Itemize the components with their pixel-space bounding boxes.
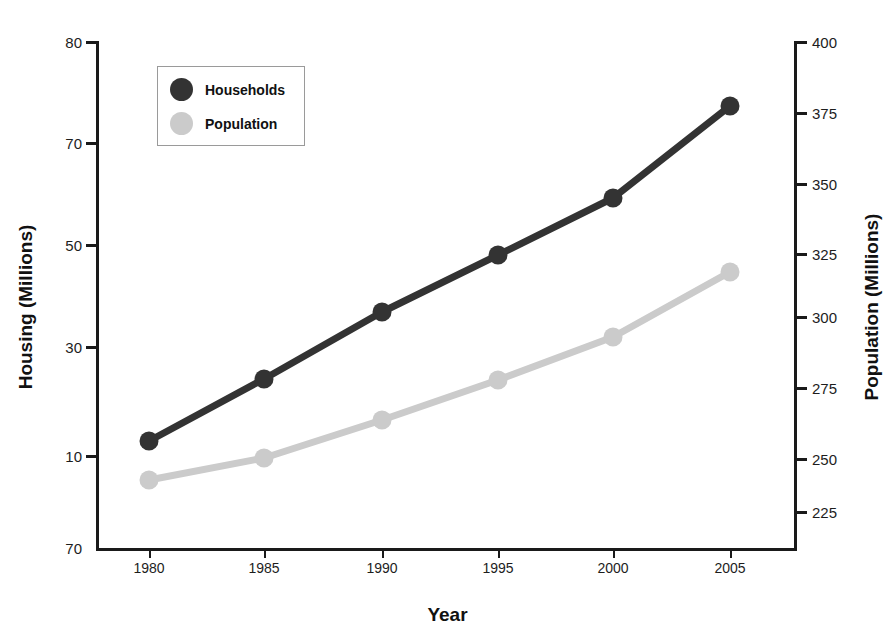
y-axis-right-tick — [796, 458, 807, 461]
y-axis-right-tick-label: 350 — [812, 176, 837, 193]
data-point-households — [721, 97, 740, 116]
y-axis-left-tick — [86, 142, 97, 145]
data-point-population — [604, 328, 623, 347]
x-axis-tick — [730, 548, 732, 558]
data-point-population — [489, 371, 508, 390]
y-axis-left-title: Housing (Millions) — [15, 197, 37, 417]
x-axis-tick — [149, 548, 151, 558]
x-axis-tick — [264, 548, 266, 558]
legend-item-population: Population — [170, 112, 277, 135]
y-axis-left-line — [96, 41, 99, 551]
y-axis-right-tick — [796, 112, 807, 115]
x-axis-tick-label: 1985 — [248, 560, 279, 576]
legend-marker-population-icon — [170, 112, 193, 135]
y-axis-right-tick-label: 250 — [812, 451, 837, 468]
data-point-population — [140, 471, 159, 490]
y-axis-right-title: Population (Millions) — [861, 192, 883, 422]
y-axis-left-tick — [86, 41, 97, 44]
series-line-population — [149, 272, 730, 480]
y-axis-right-tick — [796, 316, 807, 319]
y-axis-right-tick-label: 300 — [812, 309, 837, 326]
x-axis-tick — [498, 548, 500, 558]
y-axis-right-tick — [796, 41, 807, 44]
x-axis-tick-label: 2005 — [714, 560, 745, 576]
x-axis-tick-label: 1995 — [482, 560, 513, 576]
data-point-households — [604, 189, 623, 208]
x-axis-tick-label: 2000 — [597, 560, 628, 576]
y-axis-right-tick-label: 225 — [812, 504, 837, 521]
y-axis-right-tick-label: 275 — [812, 380, 837, 397]
chart-legend: Households Population — [157, 66, 305, 146]
legend-label-population: Population — [205, 116, 277, 132]
y-axis-right-tick-label: 375 — [812, 105, 837, 122]
y-axis-right-tick — [796, 511, 807, 514]
y-axis-left-tick-label: 10 — [65, 448, 82, 465]
y-axis-left-tick-label: 50 — [65, 237, 82, 254]
y-axis-right-line — [794, 41, 797, 551]
y-axis-right-tick-label: 325 — [812, 246, 837, 263]
x-axis-title: Year — [0, 604, 895, 626]
data-point-households — [489, 246, 508, 265]
y-axis-left-tick — [86, 346, 97, 349]
y-axis-right-tick — [796, 387, 807, 390]
y-axis-left-tick-label: 70 — [65, 135, 82, 152]
chart-figure: 807050301070 400375350325300275250225 19… — [0, 0, 895, 644]
y-axis-left-tick-label: 80 — [65, 34, 82, 51]
x-axis-tick — [613, 548, 615, 558]
legend-item-households: Households — [170, 78, 285, 101]
x-axis-tick-label: 1990 — [366, 560, 397, 576]
y-axis-right-tick-label: 400 — [812, 34, 837, 51]
data-point-households — [373, 303, 392, 322]
x-axis-line — [96, 548, 797, 551]
data-point-households — [255, 370, 274, 389]
x-axis-tick-label: 1980 — [133, 560, 164, 576]
y-axis-left-tick — [86, 455, 97, 458]
legend-label-households: Households — [205, 82, 285, 98]
data-point-population — [255, 449, 274, 468]
y-axis-left-tick — [86, 244, 97, 247]
y-axis-left-tick-label: 70 — [65, 540, 82, 557]
y-axis-right-tick — [796, 183, 807, 186]
y-axis-left-tick-label: 30 — [65, 339, 82, 356]
data-point-population — [373, 411, 392, 430]
y-axis-right-tick — [796, 253, 807, 256]
legend-marker-households-icon — [170, 78, 193, 101]
series-line-households — [149, 106, 730, 441]
data-point-population — [721, 263, 740, 282]
data-point-households — [140, 432, 159, 451]
x-axis-tick — [382, 548, 384, 558]
